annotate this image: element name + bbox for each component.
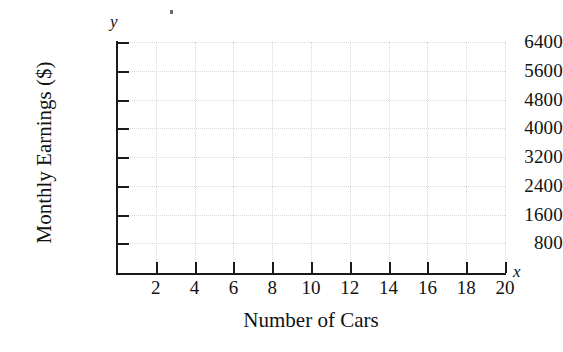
y-tick-label: 1600: [451, 205, 563, 224]
x-tick-mark: [233, 262, 235, 273]
y-tick-label: 3200: [451, 147, 563, 166]
gridline-vertical: [233, 42, 234, 272]
x-tick-mark: [350, 262, 352, 273]
x-tick-mark: [505, 262, 507, 273]
x-tick-label: 18: [446, 278, 486, 297]
y-axis-variable-symbol: y: [110, 12, 118, 32]
y-tick-mark: [118, 243, 129, 245]
x-tick-mark: [156, 262, 158, 273]
y-tick-label: 4000: [451, 118, 563, 137]
gridline-vertical: [350, 42, 351, 272]
y-tick-mark: [118, 100, 129, 102]
gridline-vertical: [311, 42, 312, 272]
gridline-vertical: [389, 42, 390, 272]
gridline-vertical: [195, 42, 196, 272]
x-tick-label: 10: [291, 278, 331, 297]
chart-figure: 8001600240032004000480056006400 24681012…: [0, 0, 563, 352]
x-tick-label: 8: [252, 278, 292, 297]
x-axis-variable-symbol: x: [513, 262, 521, 282]
x-tick-mark: [466, 262, 468, 273]
x-tick-mark: [272, 262, 274, 273]
x-tick-label: 16: [407, 278, 447, 297]
y-tick-label: 800: [451, 233, 563, 252]
y-tick-mark: [118, 186, 129, 188]
x-tick-mark: [195, 262, 197, 273]
y-tick-mark: [118, 128, 129, 130]
x-tick-label: 12: [330, 278, 370, 297]
x-tick-mark: [389, 262, 391, 273]
gridline-vertical: [427, 42, 428, 272]
plot-area: [117, 42, 505, 272]
y-tick-label: 4800: [451, 90, 563, 109]
y-tick-mark: [118, 215, 129, 217]
x-tick-label: 4: [175, 278, 215, 297]
x-axis-title: Number of Cars: [117, 310, 505, 331]
y-tick-label: 5600: [451, 61, 563, 80]
y-tick-mark: [118, 157, 129, 159]
scan-speck-artifact: [170, 10, 173, 14]
x-tick-label: 14: [369, 278, 409, 297]
x-axis-line: [116, 273, 506, 275]
y-tick-label: 2400: [451, 176, 563, 195]
gridline-vertical: [272, 42, 273, 272]
x-tick-mark: [427, 262, 429, 273]
x-tick-label: 6: [213, 278, 253, 297]
x-tick-label: 2: [136, 278, 176, 297]
y-tick-mark: [118, 71, 129, 73]
gridline-vertical: [156, 42, 157, 272]
y-axis-title: Monthly Earnings ($): [34, 33, 55, 273]
x-tick-mark: [311, 262, 313, 273]
y-tick-label: 6400: [451, 32, 563, 51]
y-tick-mark: [118, 42, 129, 44]
